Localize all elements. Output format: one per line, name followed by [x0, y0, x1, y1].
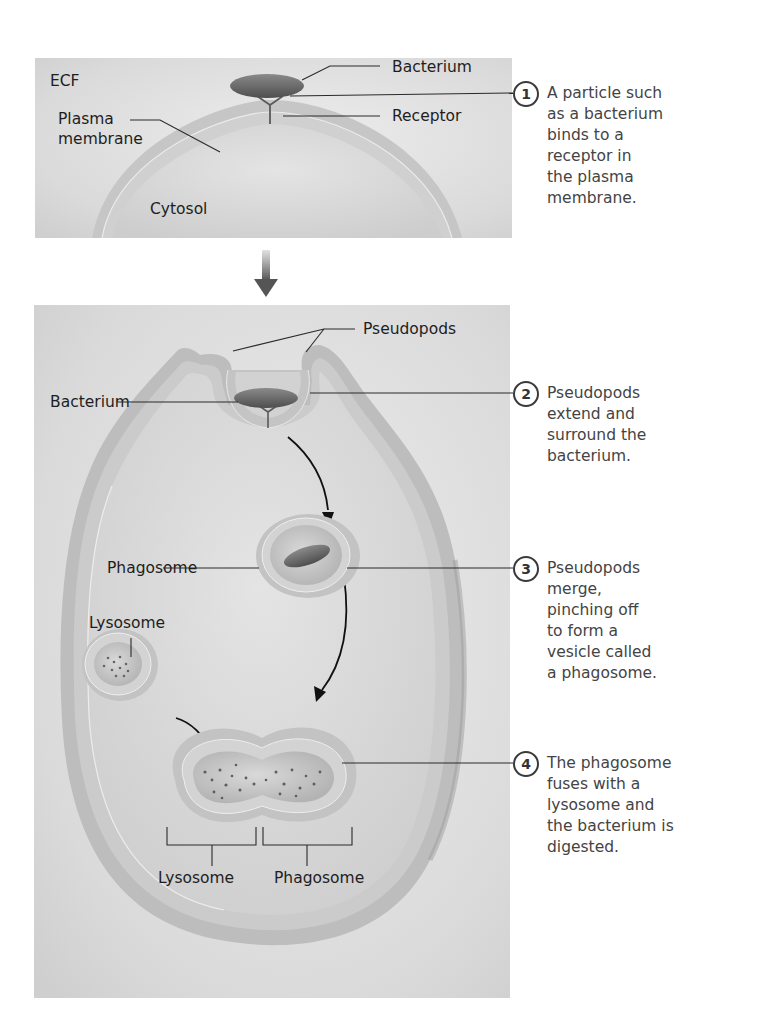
label-receptor: Receptor: [392, 107, 461, 125]
label-plasma-membrane-line2: membrane: [58, 130, 143, 148]
label-bacterium-2: Bacterium: [50, 393, 130, 411]
label-plasma-membrane-line1: Plasma: [58, 110, 114, 128]
step-number-badge: 4: [513, 751, 539, 777]
label-bacterium: Bacterium: [392, 58, 472, 76]
bacterium-icon: [234, 388, 298, 408]
label-ecf: ECF: [50, 72, 80, 90]
step-number-badge: 3: [513, 556, 539, 582]
step-description: The phagosome fuses with a lysosome and …: [547, 753, 697, 858]
label-bottom-phagosome: Phagosome: [274, 869, 364, 887]
label-cytosol: Cytosol: [150, 200, 207, 218]
step-description: Pseudopods extend and surround the bacte…: [547, 383, 697, 467]
step-1: 1 A particle such as a bacterium binds t…: [513, 81, 697, 209]
lysosome-vesicle: [82, 629, 158, 701]
bacterium-icon: [230, 74, 304, 98]
step-4: 4 The phagosome fuses with a lysosome an…: [513, 751, 697, 858]
step-2: 2 Pseudopods extend and surround the bac…: [513, 381, 697, 467]
step-3: 3 Pseudopods merge, pinching off to form…: [513, 556, 697, 684]
label-phagosome: Phagosome: [107, 559, 197, 577]
step-description: A particle such as a bacterium binds to …: [547, 83, 697, 209]
phagosome-vesicle: [256, 514, 360, 598]
down-arrow-icon: [254, 250, 278, 297]
step-description: Pseudopods merge, pinching off to form a…: [547, 558, 697, 684]
step-number-badge: 2: [513, 381, 539, 407]
label-pseudopods: Pseudopods: [363, 320, 456, 338]
label-bottom-lysosome: Lysosome: [158, 869, 234, 887]
fused-vesicle: [173, 727, 357, 822]
label-lysosome: Lysosome: [89, 614, 165, 632]
step-number-badge: 1: [513, 81, 539, 107]
